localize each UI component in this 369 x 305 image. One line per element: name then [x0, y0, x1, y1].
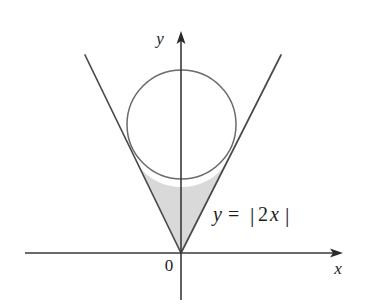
x-axis-label: x — [333, 259, 342, 278]
equation-equals-sign: = — [228, 203, 239, 225]
equation-label: y = | 2 x | — [211, 202, 289, 227]
equation-bar-right: | — [285, 202, 289, 227]
equation-variable: x — [269, 203, 279, 225]
figure-canvas: y x 0 y = | 2 x | — [0, 0, 369, 305]
origin-label: 0 — [165, 256, 174, 275]
equation-bar-left: | — [250, 202, 254, 227]
equation-coefficient: 2 — [258, 203, 268, 225]
equation-lhs: y — [211, 203, 222, 226]
math-figure-svg: y x 0 y = | 2 x | — [0, 0, 369, 305]
y-axis-label: y — [154, 29, 164, 48]
absolute-value-left-branch — [85, 55, 181, 253]
